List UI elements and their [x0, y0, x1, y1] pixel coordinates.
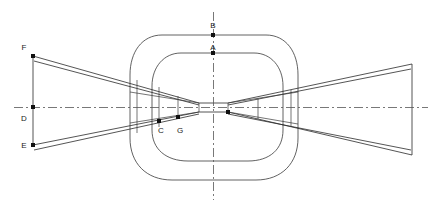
left-upper-outer-edge	[33, 56, 199, 103]
left-upper-inner-edge	[34, 61, 199, 105]
left-lower-inner-edge	[34, 114, 199, 150]
label-A: A	[210, 43, 216, 52]
point-marker-E	[31, 143, 35, 147]
technical-drawing-canvas: B A F D E C G	[0, 0, 434, 215]
point-marker-G	[176, 115, 180, 119]
label-B: B	[210, 21, 215, 30]
point-marker-F	[31, 54, 35, 58]
right-inner-taper-lower	[228, 112, 298, 124]
right-wing-group	[228, 64, 412, 155]
point-marker-waist-right	[226, 110, 230, 114]
right-lower-inner-edge	[228, 114, 411, 150]
point-marker-D	[31, 105, 35, 109]
right-lower-outer-edge	[228, 112, 412, 155]
point-markers-group	[31, 33, 230, 147]
centerlines-group	[14, 12, 428, 200]
point-marker-C	[157, 119, 161, 123]
right-upper-outer-edge	[228, 64, 412, 103]
right-upper-inner-edge	[228, 69, 411, 105]
label-F: F	[22, 43, 27, 52]
left-inner-taper-upper	[130, 92, 199, 103]
point-marker-B	[211, 33, 215, 37]
label-E: E	[21, 141, 26, 150]
right-inner-taper-upper	[228, 92, 298, 103]
inner-oval-outline	[152, 53, 283, 161]
label-G: G	[177, 126, 183, 135]
label-D: D	[21, 114, 27, 123]
drawing-svg: B A F D E C G	[0, 0, 434, 215]
left-lower-outer-edge	[33, 112, 199, 145]
labels-group: B A F D E C G	[21, 21, 216, 150]
label-C: C	[158, 126, 164, 135]
left-wing-group	[33, 56, 199, 150]
